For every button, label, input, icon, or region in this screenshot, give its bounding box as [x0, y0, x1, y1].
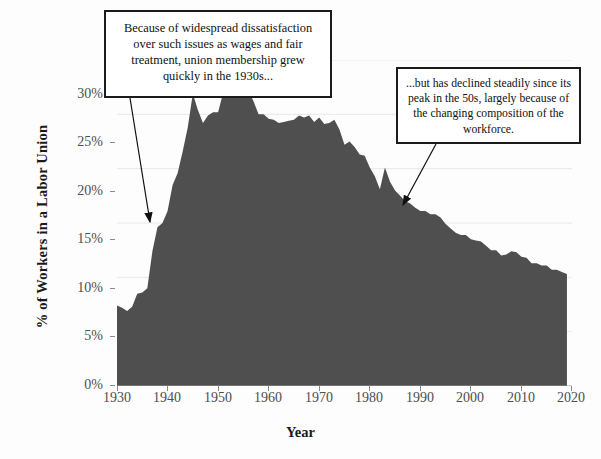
y-axis-title: % of Workers in a Labor Union — [34, 67, 51, 387]
annotation-callout-right: ...but has declined steadily since its p… — [396, 67, 581, 144]
x-axis-title: Year — [0, 424, 601, 441]
y-tick-mark-0 — [110, 385, 115, 386]
x-tick-label-2020: 2020 — [541, 390, 601, 406]
y-tick-label-25: 25% — [57, 134, 103, 150]
chart-figure: % of Workers in a Labor Union 30% 25% 20… — [0, 0, 601, 459]
y-tick-mark-5 — [110, 336, 115, 337]
y-tick-mark-25 — [110, 142, 115, 143]
annotation-callout-left: Because of widespread dissatisfaction ov… — [104, 10, 332, 98]
y-tick-mark-20 — [110, 191, 115, 192]
y-tick-label-30: 30% — [57, 86, 103, 102]
y-tick-label-5: 5% — [57, 328, 103, 344]
y-tick-mark-10 — [110, 288, 115, 289]
y-tick-label-15: 15% — [57, 231, 103, 247]
y-tick-mark-15 — [110, 239, 115, 240]
y-tick-label-10: 10% — [57, 280, 103, 296]
y-tick-label-20: 20% — [57, 183, 103, 199]
